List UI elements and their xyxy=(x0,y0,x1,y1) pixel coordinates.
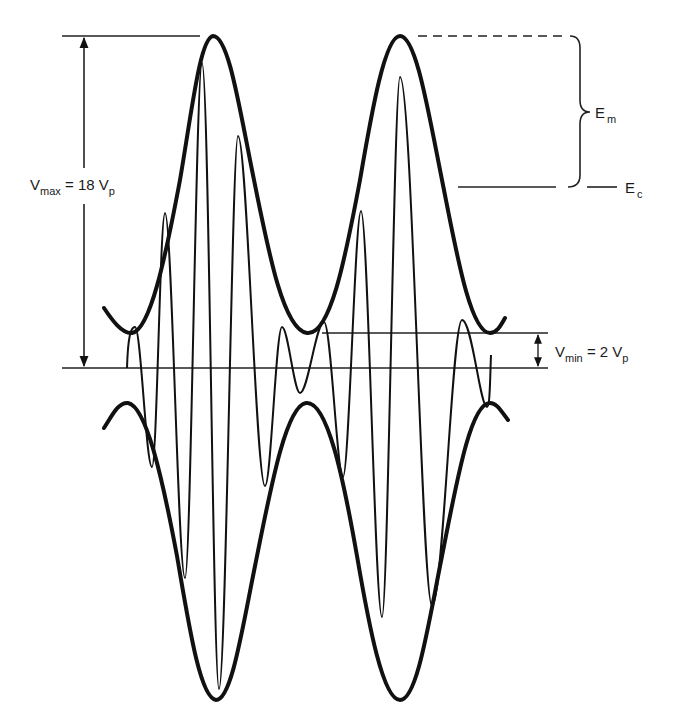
lower-envelope xyxy=(104,403,508,700)
am-waveform-diagram: Vmax = 18 Vp Vmin = 2 Vp Em Ec xyxy=(0,0,675,726)
em-label: Em xyxy=(595,104,616,125)
ec-label: Ec xyxy=(625,179,643,200)
em-brace xyxy=(568,36,590,187)
vmin-label: Vmin = 2 Vp xyxy=(555,343,628,364)
upper-envelope xyxy=(104,36,505,333)
vmax-label: Vmax = 18 Vp xyxy=(30,176,115,197)
